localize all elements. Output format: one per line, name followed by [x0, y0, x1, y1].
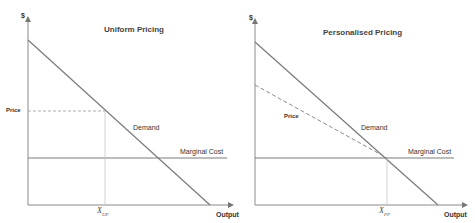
left-x-axis-label: Output — [216, 211, 239, 218]
diagram-canvas — [0, 0, 475, 223]
right-y-axis-label: $ — [249, 14, 253, 21]
right-mc-label: Marginal Cost — [408, 148, 451, 155]
right-x-axis-label: Output — [444, 211, 467, 218]
left-demand-label: Demand — [133, 124, 159, 131]
right-price-dashed — [255, 85, 387, 158]
left-chart — [28, 19, 231, 205]
right-demand-label: Demand — [361, 124, 387, 131]
left-y-axis-label: $ — [21, 12, 25, 19]
left-quantity-label: XUP — [97, 207, 109, 217]
right-quantity-label: XPP — [379, 207, 390, 217]
left-mc-label: Marginal Cost — [180, 148, 223, 155]
right-price-label: Price — [284, 113, 299, 119]
right-demand-line — [255, 42, 438, 205]
left-chart-title: Uniform Pricing — [104, 26, 164, 34]
left-demand-line — [28, 40, 210, 205]
left-price-label: Price — [6, 107, 21, 113]
right-chart-title: Personalised Pricing — [323, 29, 402, 37]
